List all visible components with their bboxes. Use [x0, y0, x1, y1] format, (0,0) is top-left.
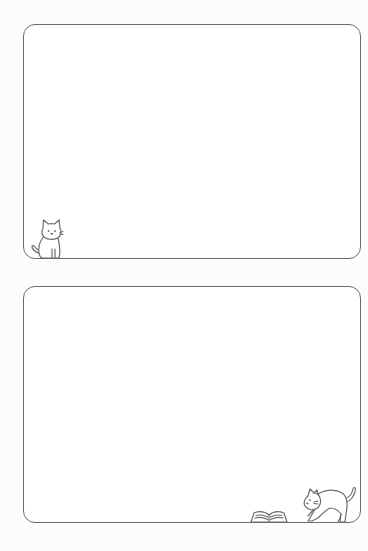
- writing-frame-top: [23, 24, 361, 259]
- stretching-cat-icon: [302, 484, 360, 524]
- open-book-icon: [249, 508, 289, 524]
- stationery-page: [0, 0, 368, 551]
- sitting-cat-icon: [28, 216, 68, 260]
